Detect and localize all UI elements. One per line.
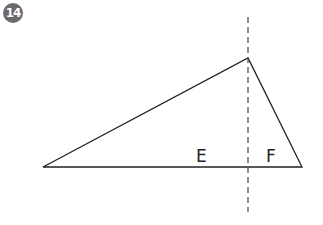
triangle: [43, 58, 302, 167]
triangle-diagram: [0, 0, 323, 225]
region-label-f: F: [266, 146, 276, 166]
region-label-e: E: [196, 146, 207, 166]
